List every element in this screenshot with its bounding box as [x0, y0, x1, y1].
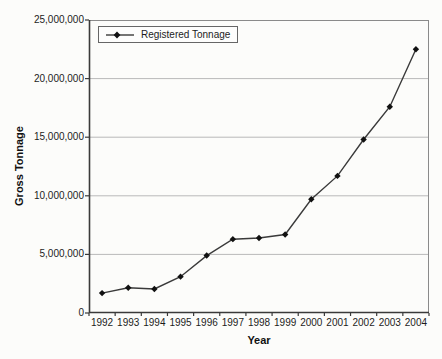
series-line [102, 49, 416, 293]
data-point-marker [413, 46, 419, 52]
data-point-marker [125, 285, 131, 291]
legend: Registered Tonnage [98, 26, 238, 43]
line-chart-plot-area [89, 20, 429, 313]
y-axis-title: Gross Tonnage [13, 126, 25, 206]
plot-border [90, 21, 429, 313]
x-tick-label: 2004 [396, 317, 436, 329]
y-tick-label: 25,000,000 [34, 14, 84, 26]
data-point-marker [256, 235, 262, 241]
legend-line-marker-icon [105, 30, 135, 40]
data-point-marker [99, 290, 105, 296]
registered-tonnage-chart: Gross Tonnage 05,000,00010,000,00015,000… [0, 0, 442, 359]
y-tick-label: 20,000,000 [34, 73, 84, 85]
y-tick-label: 5,000,000 [40, 248, 85, 260]
legend-label: Registered Tonnage [141, 29, 230, 40]
y-tick-label: 15,000,000 [34, 131, 84, 143]
y-tick-label: 10,000,000 [34, 190, 84, 202]
x-axis-title: Year [89, 334, 429, 346]
data-point-marker [151, 286, 157, 292]
